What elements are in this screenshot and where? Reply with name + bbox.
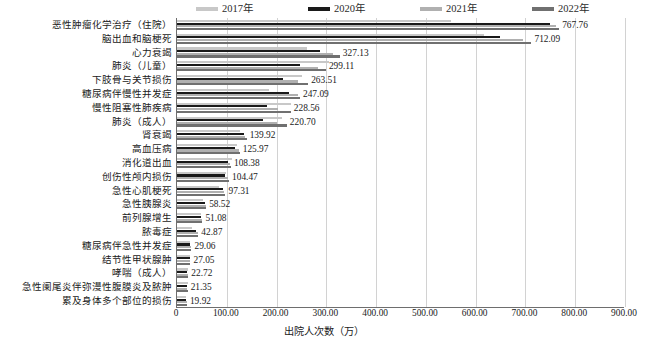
bar[interactable] — [177, 28, 559, 30]
legend-item[interactable]: 2021年 — [420, 4, 532, 15]
bar[interactable] — [177, 111, 291, 113]
category-label: 前列腺增生 — [122, 213, 172, 223]
category-label: 高血压病 — [132, 144, 172, 154]
legend-item[interactable]: 2020年 — [308, 4, 420, 15]
bar[interactable] — [177, 152, 240, 154]
bar-value-label: 51.08 — [205, 215, 226, 224]
bar-value-label: 104.47 — [232, 173, 258, 182]
bar[interactable] — [177, 194, 225, 196]
bar[interactable] — [177, 124, 287, 126]
x-axis-tick-label: 700.00 — [512, 309, 538, 318]
category-axis-labels: 恶性肿瘤化学治疗（住院）脑出血和脑梗死心力衰竭肺炎（儿童）下肢骨与关节损伤糖尿病… — [0, 18, 174, 308]
bar-group — [177, 61, 624, 71]
bar-group — [177, 20, 624, 30]
x-axis-tick-label: 600.00 — [462, 309, 488, 318]
legend-swatch-icon — [308, 7, 330, 11]
bar-group — [177, 199, 624, 209]
category-label: 糖尿病伴急性并发症 — [82, 241, 172, 251]
bar[interactable] — [177, 97, 300, 99]
x-axis-tick-label: 100.00 — [213, 309, 239, 318]
bar[interactable] — [177, 276, 188, 278]
legend-item[interactable]: 2017年 — [196, 4, 308, 15]
legend-swatch-icon — [532, 7, 554, 11]
category-label: 累及身体多个部位的损伤 — [62, 296, 172, 306]
x-axis-ticks: 0100.00200.00300.00400.00500.00600.00700… — [176, 309, 624, 323]
legend-item-label: 2020年 — [334, 4, 365, 15]
bar-value-label: 767.76 — [562, 21, 588, 30]
bar-group — [177, 227, 624, 237]
category-label: 糖尿病伴慢性并发症 — [82, 89, 172, 99]
category-label: 哮喘（成人） — [112, 269, 172, 279]
category-label: 脑出血和脑梗死 — [102, 34, 172, 44]
bar-value-label: 29.06 — [194, 242, 215, 251]
bar-value-label: 22.72 — [191, 270, 212, 279]
legend-item-label: 2021年 — [446, 4, 477, 15]
bar[interactable] — [177, 235, 198, 237]
bar-value-label: 125.97 — [243, 145, 269, 154]
category-label: 肺炎（儿童） — [112, 62, 172, 72]
category-label: 肺炎（成人） — [112, 117, 172, 127]
plot-wrapper: 恶性肿瘤化学治疗（住院）脑出血和脑梗死心力衰竭肺炎（儿童）下肢骨与关节损伤糖尿病… — [0, 18, 648, 308]
bar-value-label: 228.56 — [294, 104, 320, 113]
bar[interactable] — [177, 42, 531, 44]
bar-value-label: 139.92 — [250, 132, 276, 141]
bar[interactable] — [177, 55, 340, 57]
x-axis-tick-label: 500.00 — [412, 309, 438, 318]
bar-group — [177, 75, 624, 85]
x-axis-tick-label: 900.00 — [611, 309, 637, 318]
bar[interactable] — [177, 83, 308, 85]
bar-value-label: 263.51 — [311, 76, 337, 85]
bar-group — [177, 47, 624, 57]
bar-value-label: 299.11 — [329, 63, 354, 72]
bar[interactable] — [177, 138, 247, 140]
category-label: 急性胰腺炎 — [122, 200, 172, 210]
category-label: 心力衰竭 — [132, 48, 172, 58]
bar[interactable] — [177, 290, 188, 292]
x-axis-tick-label: 0 — [174, 309, 179, 318]
bar-group — [177, 282, 624, 292]
bar-group — [177, 103, 624, 113]
category-label: 脓毒症 — [142, 227, 172, 237]
category-label: 急性阑尾炎伴弥漫性腹膜炎及脓肿 — [22, 282, 172, 292]
bar-group — [177, 89, 624, 99]
bar-value-label: 712.09 — [534, 35, 560, 44]
bar[interactable] — [177, 207, 206, 209]
bar[interactable] — [177, 180, 229, 182]
bar-value-label: 220.70 — [290, 118, 316, 127]
bar[interactable] — [177, 166, 231, 168]
bar-group — [177, 130, 624, 140]
chart-legend: 2017年2020年2021年2022年 — [196, 2, 644, 16]
gridline — [625, 18, 626, 307]
bar[interactable] — [177, 263, 190, 265]
bar-value-label: 58.52 — [209, 201, 230, 210]
category-label: 结节性甲状腺肿 — [102, 255, 172, 265]
x-axis-title: 出院人次数（万） — [0, 323, 648, 338]
x-axis-tick-label: 200.00 — [263, 309, 289, 318]
bar-value-label: 21.35 — [191, 284, 212, 293]
category-label: 慢性阻塞性肺疾病 — [92, 103, 172, 113]
bar-value-label: 247.09 — [303, 90, 329, 99]
bar-group — [177, 241, 624, 251]
legend-item-label: 2017年 — [222, 4, 253, 15]
bar-value-label: 27.05 — [193, 256, 214, 265]
bar[interactable] — [177, 69, 326, 71]
bar[interactable] — [177, 249, 191, 251]
bar-value-label: 42.87 — [201, 228, 222, 237]
category-label: 消化道出血 — [122, 158, 172, 168]
bar-value-label: 97.31 — [228, 187, 249, 196]
bar-group — [177, 213, 624, 223]
legend-item-label: 2022年 — [558, 4, 589, 15]
chart-container: 2017年2020年2021年2022年 恶性肿瘤化学治疗（住院）脑出血和脑梗死… — [0, 0, 648, 349]
bar-value-label: 108.38 — [234, 159, 260, 168]
legend-item[interactable]: 2022年 — [532, 4, 644, 15]
plot-area: 767.76712.09327.13299.11263.51247.09228.… — [176, 18, 624, 308]
bar-value-label: 19.92 — [190, 297, 211, 306]
x-axis-tick-label: 300.00 — [312, 309, 338, 318]
bar-value-label: 327.13 — [343, 49, 369, 58]
category-label: 肾衰竭 — [142, 131, 172, 141]
bar[interactable] — [177, 304, 187, 306]
legend-swatch-icon — [420, 7, 442, 11]
bar[interactable] — [177, 221, 202, 223]
category-label: 急性心肌梗死 — [112, 186, 172, 196]
bar-group — [177, 255, 624, 265]
